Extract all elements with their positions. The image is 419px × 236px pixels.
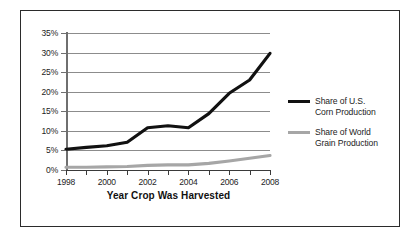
- y-tick-label: 30%: [42, 48, 58, 58]
- x-tick-mark: [127, 171, 128, 175]
- x-tick-mark: [188, 171, 189, 175]
- x-tick-label: 1998: [57, 177, 75, 187]
- x-tick-label: 2006: [220, 177, 238, 187]
- series-line-0: [66, 53, 270, 149]
- x-tick-label: 2000: [98, 177, 116, 187]
- x-tick-mark: [250, 171, 251, 175]
- y-tick-label: 25%: [42, 67, 58, 77]
- legend-entry[interactable]: Share of U.S. Corn Production: [288, 96, 396, 117]
- x-tick-mark: [229, 171, 230, 175]
- y-axis-tick-labels: 0%5%10%15%20%25%30%35%: [22, 0, 58, 236]
- legend-swatch-icon: [288, 131, 310, 134]
- legend-label: Share of World Grain Production: [315, 127, 378, 148]
- x-tick-label: 2002: [139, 177, 157, 187]
- x-tick-mark: [148, 171, 149, 175]
- x-tick-mark: [270, 171, 271, 175]
- x-tick-label: 2008: [261, 177, 279, 187]
- y-tick-mark: [61, 150, 66, 151]
- x-tick-mark: [209, 171, 210, 175]
- y-tick-label: 10%: [42, 126, 58, 136]
- legend-label: Share of U.S. Corn Production: [315, 96, 376, 117]
- x-axis-title: Year Crop Was Harvested: [66, 190, 271, 201]
- y-tick-label: 0%: [46, 165, 58, 175]
- x-tick-mark: [168, 171, 169, 175]
- series-layer: [66, 33, 270, 170]
- legend-swatch-icon: [288, 100, 310, 103]
- y-tick-label: 15%: [42, 106, 58, 116]
- series-line-1: [66, 156, 270, 168]
- x-tick-mark: [86, 171, 87, 175]
- y-tick-mark: [61, 111, 66, 112]
- y-tick-label: 20%: [42, 87, 58, 97]
- y-tick-label: 35%: [42, 28, 58, 38]
- x-tick-mark: [107, 171, 108, 175]
- chart-figure: 0%5%10%15%20%25%30%35% 19982000200220042…: [0, 0, 419, 236]
- y-tick-mark: [61, 53, 66, 54]
- y-tick-mark: [61, 131, 66, 132]
- legend: Share of U.S. Corn ProductionShare of Wo…: [288, 96, 396, 158]
- x-tick-mark: [66, 171, 67, 175]
- y-tick-mark: [61, 170, 66, 171]
- legend-entry[interactable]: Share of World Grain Production: [288, 127, 396, 148]
- y-tick-mark: [61, 72, 66, 73]
- y-tick-mark: [61, 33, 66, 34]
- y-tick-label: 5%: [46, 145, 58, 155]
- y-tick-mark: [61, 92, 66, 93]
- x-tick-label: 2004: [179, 177, 197, 187]
